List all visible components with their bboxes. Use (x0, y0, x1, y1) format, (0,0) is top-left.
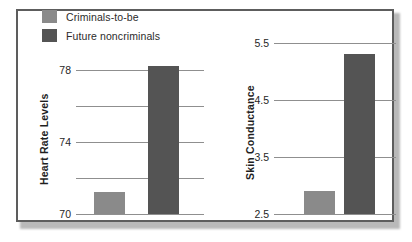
y-axis-title-heart-rate: Heart Rate Levels (38, 93, 50, 185)
y-tick-label-heart-rate: 78 (59, 64, 71, 76)
y-tick-label-skin-conductance: 4.5 (254, 94, 269, 106)
plot-area-skin-conductance: 2.53.54.55.5 (274, 37, 396, 214)
bar-heart-rate-future-noncriminals (148, 66, 179, 214)
gridline-skin-conductance (274, 157, 396, 158)
gridline-heart-rate (76, 70, 204, 71)
bar-skin-conductance-future-noncriminals (344, 54, 375, 214)
chart-panel-skin-conductance: Skin Conductance 2.53.54.55.5 (206, 0, 396, 242)
gridline-skin-conductance (274, 43, 396, 44)
bar-heart-rate-criminals-to-be (94, 192, 125, 214)
bar-skin-conductance-criminals-to-be (304, 191, 335, 214)
y-tick-label-skin-conductance: 3.5 (254, 151, 269, 163)
gridline-heart-rate (76, 178, 204, 179)
y-tick-label-heart-rate: 70 (59, 208, 71, 220)
gridline-skin-conductance (274, 100, 396, 101)
gridline-skin-conductance (274, 214, 396, 215)
gridline-heart-rate (76, 214, 204, 215)
figure-container: Criminals-to-be Future noncriminals Hear… (0, 0, 412, 242)
y-tick-label-heart-rate: 74 (59, 136, 71, 148)
gridline-heart-rate (76, 106, 204, 107)
gridline-heart-rate (76, 142, 204, 143)
chart-panel-heart-rate: Heart Rate Levels 707478 (16, 0, 206, 242)
y-tick-label-skin-conductance: 2.5 (254, 208, 269, 220)
y-tick-label-skin-conductance: 5.5 (254, 37, 269, 49)
plot-area-heart-rate: 707478 (76, 52, 204, 214)
